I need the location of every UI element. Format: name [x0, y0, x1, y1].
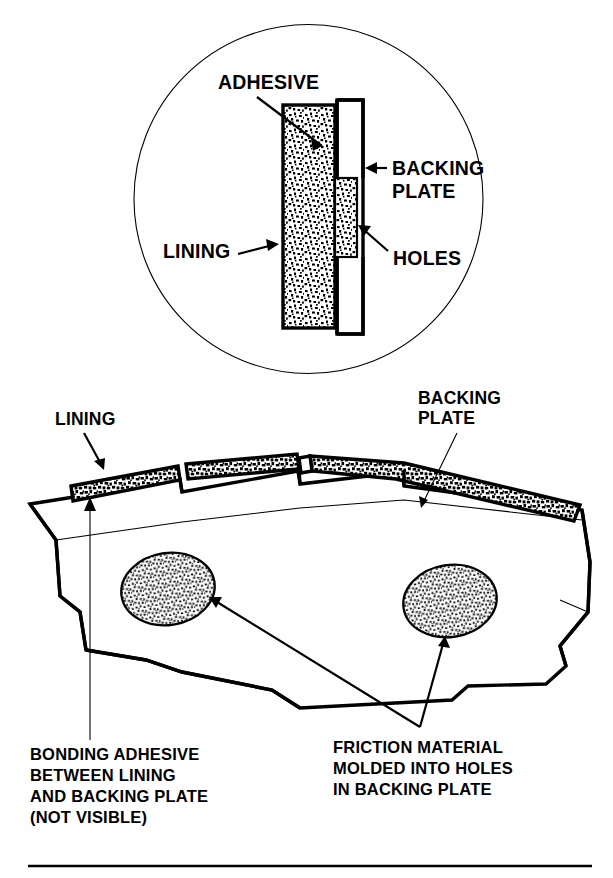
caption-left-line-2: BETWEEN LINING	[30, 766, 176, 784]
detail-label-adhesive: ADHESIVE	[218, 71, 319, 93]
main-label-lining: LINING	[55, 409, 116, 429]
detail-label-backing-plate-line2: PLATE	[392, 180, 455, 202]
caption-right-group: FRICTION MATERIAL MOLDED INTO HOLES IN B…	[333, 738, 513, 798]
caption-left-line-3: AND BACKING PLATE	[30, 787, 208, 805]
detail-label-lining: LINING	[163, 240, 230, 262]
detail-lining-block	[283, 105, 335, 328]
caption-right-line-1: FRICTION MATERIAL	[333, 738, 503, 756]
detail-label-backing-plate-line1: BACKING	[392, 157, 484, 179]
brake-pad-diagram: ADHESIVE BACKING PLATE LINING HOLES	[0, 0, 613, 878]
figure-root: ADHESIVE BACKING PLATE LINING HOLES	[0, 0, 613, 878]
detail-hole-fill	[335, 178, 357, 257]
main-label-backing-plate-line2: PLATE	[418, 408, 475, 428]
caption-right-line-2: MOLDED INTO HOLES	[333, 759, 513, 777]
caption-right-line-3: IN BACKING PLATE	[333, 780, 492, 798]
caption-left-line-1: BONDING ADHESIVE	[30, 745, 199, 763]
caption-left-line-4: (NOT VISIBLE)	[30, 808, 147, 826]
detail-label-holes: HOLES	[393, 247, 461, 269]
main-label-backing-plate-line1: BACKING	[418, 388, 501, 408]
